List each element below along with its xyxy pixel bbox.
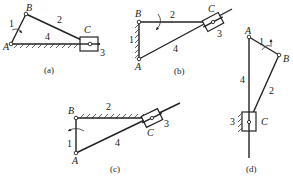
label-link-2: 2 [106, 101, 111, 112]
joint-C [150, 116, 153, 119]
label-C: C [208, 3, 215, 14]
panel-b: B A C 1 2 3 4 (b) [129, 3, 232, 76]
link-1 [249, 37, 279, 55]
caption-a: (a) [44, 65, 54, 75]
label-link-3: 3 [164, 118, 169, 129]
label-A: A [71, 155, 79, 166]
caption-d: (d) [246, 164, 257, 174]
joint-B [277, 53, 281, 57]
caption-c: (c) [110, 164, 120, 174]
label-A: A [244, 25, 252, 36]
label-link-3: 3 [230, 116, 235, 127]
label-C: C [147, 127, 154, 138]
joint-B [74, 116, 78, 120]
figure-svg: A B C 1 2 3 4 (a) B A C 1 2 3 4 [0, 0, 293, 183]
label-B: B [283, 53, 289, 64]
mechanism-inversions-figure: A B C 1 2 3 4 (a) B A C 1 2 3 4 [0, 0, 293, 183]
panel-a: A B C 1 2 3 4 (a) [2, 2, 105, 75]
label-link-2: 2 [57, 14, 62, 25]
label-link-3: 3 [100, 47, 105, 58]
label-link-1: 1 [129, 34, 134, 45]
label-B: B [68, 105, 74, 116]
label-link-3: 3 [217, 28, 222, 39]
label-link-1: 1 [259, 36, 264, 47]
joint-A [9, 42, 13, 46]
label-link-1: 1 [67, 138, 72, 149]
joint-B [137, 20, 141, 24]
joint-C [211, 20, 214, 23]
caption-b: (b) [174, 66, 185, 76]
label-link-4: 4 [240, 74, 245, 85]
label-link-4: 4 [115, 137, 120, 148]
label-B: B [26, 2, 32, 13]
label-link-2: 2 [269, 85, 274, 96]
joint-C [88, 42, 92, 46]
label-B: B [135, 8, 141, 19]
label-link-1: 1 [9, 18, 14, 29]
ground-hatch [238, 113, 242, 132]
label-A: A [134, 61, 142, 72]
joint-C [247, 120, 250, 123]
panel-c: B A C 1 2 3 4 (c) [67, 101, 180, 174]
label-C: C [84, 24, 91, 35]
label-C: C [261, 116, 268, 127]
label-link-2: 2 [170, 9, 175, 20]
label-link-4: 4 [173, 43, 178, 54]
label-A: A [2, 41, 10, 52]
label-link-4: 4 [45, 31, 50, 42]
panel-d: A B C 1 2 3 4 (d) [230, 25, 289, 174]
